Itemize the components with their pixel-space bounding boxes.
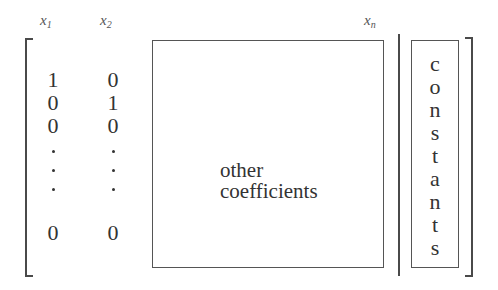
ellipsis-dot (112, 188, 115, 191)
constants-letter: o (412, 76, 458, 98)
constants-letter: a (412, 168, 458, 190)
cell-value: 0 (43, 92, 63, 114)
constants-letter: c (412, 53, 458, 75)
column-label-xn: xn (364, 13, 376, 30)
ellipsis-dot (112, 169, 115, 172)
constants-letter: t (412, 145, 458, 167)
constants-letter: s (412, 237, 458, 259)
constants-letter: t (412, 214, 458, 236)
constants-letter: n (412, 99, 458, 121)
cell-value: 0 (103, 222, 123, 244)
constants-letter: s (412, 122, 458, 144)
ellipsis-dot (52, 188, 55, 191)
cell-value: 0 (103, 69, 123, 91)
constants-letter: n (412, 191, 458, 213)
coefficients-label-line-2: coefficients (220, 181, 318, 202)
cell-value: 0 (43, 222, 63, 244)
column-label-x2: x2 (100, 13, 112, 30)
ellipsis-dot (52, 150, 55, 153)
coefficients-label-line-1: other (220, 160, 263, 181)
ellipsis-dot (52, 169, 55, 172)
cell-value: 1 (103, 92, 123, 114)
augment-separator (398, 34, 400, 276)
other-coefficients-box (152, 40, 384, 268)
ellipsis-dot (112, 150, 115, 153)
cell-value: 0 (103, 115, 123, 137)
cell-value: 1 (43, 69, 63, 91)
cell-value: 0 (43, 115, 63, 137)
column-label-x1: x1 (40, 13, 52, 30)
